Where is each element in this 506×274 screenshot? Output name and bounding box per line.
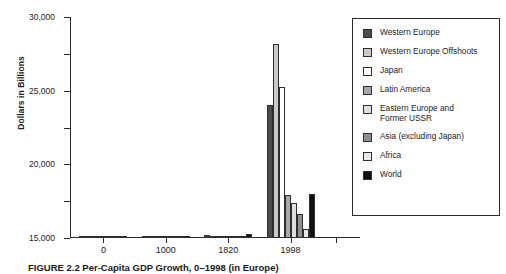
y-tick-label: 25,000 [29, 86, 55, 96]
y-tick: 25,000 [64, 54, 70, 55]
legend-item[interactable]: Japan [363, 66, 499, 76]
legend-swatch-icon [363, 48, 372, 57]
plot-area: 05,00010,00015,00020,00025,00030,000 010… [70, 17, 324, 238]
x-tick-label: 1998 [281, 245, 301, 255]
y-tick: 20,000 [64, 91, 70, 92]
y-tick: 5,000 [64, 201, 70, 202]
legend-label: World [380, 170, 402, 180]
y-tick: 10,000 [64, 164, 70, 165]
legend-swatch-icon [363, 105, 372, 114]
legend-label: Japan [380, 66, 403, 76]
x-tick-label: 1000 [156, 245, 176, 255]
bar [184, 236, 190, 238]
legend-item[interactable]: Western Europe Offshoots [363, 47, 499, 57]
legend-item[interactable]: World [363, 170, 499, 180]
legend-swatch-icon [363, 67, 372, 76]
y-tick: 0 [64, 238, 70, 239]
bar [309, 194, 315, 238]
figure-container: Dollars in Billions 05,00010,00015,00020… [0, 0, 506, 274]
x-tick-label: 1820 [218, 245, 238, 255]
x-tick [336, 237, 337, 243]
legend-item[interactable]: Eastern Europe and Former USSR [363, 104, 499, 123]
y-tick-label: 15,000 [29, 233, 55, 243]
legend-swatch-icon [363, 171, 372, 180]
bar [121, 236, 127, 238]
y-tick: 30,000 [64, 17, 70, 18]
y-axis-line [70, 17, 71, 238]
legend-item[interactable]: Latin America [363, 85, 499, 95]
legend-label: Asia (excluding Japan) [380, 132, 464, 142]
figure-caption: FIGURE 2.2 Per-Capita GDP Growth, 0–1998… [28, 262, 279, 273]
legend-swatch-icon [363, 152, 372, 161]
legend-item[interactable]: Western Europe [363, 28, 499, 38]
legend-swatch-icon [363, 86, 372, 95]
y-axis-title: Dollars in Billions [16, 38, 26, 148]
y-tick-label: 20,000 [29, 159, 55, 169]
legend-label: Africa [380, 151, 401, 161]
x-tick-label: 0 [101, 245, 106, 255]
bar [246, 234, 252, 238]
y-tick: 15,000 [64, 128, 70, 129]
legend-label: Latin America [380, 85, 430, 95]
legend-label: Western Europe [380, 28, 440, 38]
legend-label: Eastern Europe and Former USSR [380, 104, 454, 123]
legend-item[interactable]: Asia (excluding Japan) [363, 132, 499, 142]
legend-swatch-icon [363, 29, 372, 38]
legend-swatch-icon [363, 133, 372, 142]
legend-item[interactable]: Africa [363, 151, 499, 161]
legend: Western EuropeWestern Europe OffshootsJa… [352, 18, 500, 216]
legend-label: Western Europe Offshoots [380, 47, 477, 57]
y-tick-label: 30,000 [29, 12, 55, 22]
